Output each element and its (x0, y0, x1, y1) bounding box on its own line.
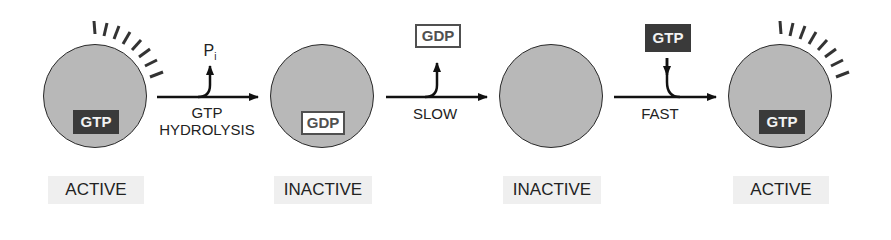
state-label: ACTIVE (733, 176, 829, 204)
released-pi-label: Pi (198, 42, 222, 65)
released-gdp-badge: GDP (415, 24, 461, 48)
arrow-hydrolysis-icon (157, 66, 258, 97)
gtp-badge: GTP (759, 110, 805, 134)
protein-circle (499, 44, 603, 148)
arrow-slow-icon (386, 63, 487, 97)
state-label: INACTIVE (274, 176, 372, 204)
state-label: INACTIVE (503, 176, 601, 204)
state-label: ACTIVE (48, 176, 144, 204)
transition-label: HYDROLYSIS (147, 121, 267, 138)
gtp-badge: GTP (73, 110, 119, 134)
transition-label: GTP (157, 104, 257, 121)
gdp-badge: GDP (301, 111, 345, 135)
transition-label: SLOW (405, 105, 465, 122)
added-gtp-badge: GTP (645, 24, 691, 52)
transition-label: FAST (630, 105, 690, 122)
arrow-fast-icon (614, 58, 716, 97)
